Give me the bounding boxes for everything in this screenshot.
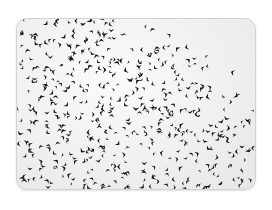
bird-flock xyxy=(17,19,255,189)
bird-flock-photo xyxy=(16,18,256,190)
